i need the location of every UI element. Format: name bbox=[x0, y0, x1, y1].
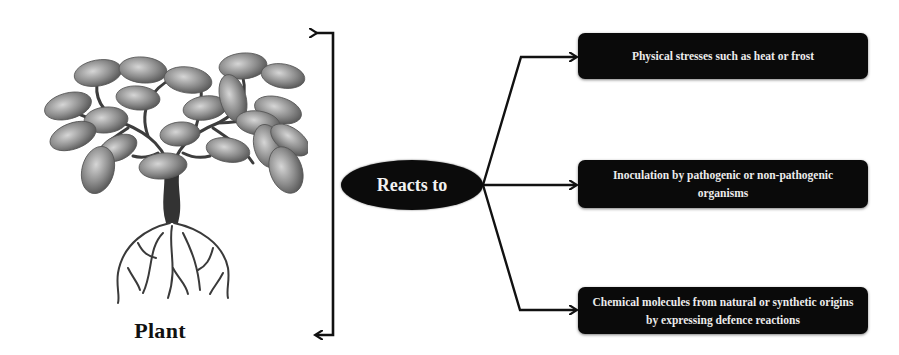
branch-arrows bbox=[483, 57, 576, 310]
stimulus-box-chemical-molecules: Chemical molecules from natural or synth… bbox=[578, 287, 868, 334]
bracket-arrow bbox=[316, 33, 333, 335]
stimulus-label: Physical stresses such as heat or frost bbox=[632, 47, 814, 65]
reacts-to-node: Reacts to bbox=[341, 160, 483, 210]
stimulus-box-inoculation: Inoculation by pathogenic or non-pathoge… bbox=[578, 160, 868, 208]
reacts-to-label: Reacts to bbox=[377, 175, 447, 196]
stimulus-box-physical-stress: Physical stresses such as heat or frost bbox=[578, 33, 868, 79]
stimulus-label: Inoculation by pathogenic or non-pathoge… bbox=[590, 166, 856, 202]
diagram-canvas: Plant Reacts to Physical stresses such a… bbox=[0, 0, 899, 355]
stimulus-label: Chemical molecules from natural or synth… bbox=[590, 293, 856, 329]
